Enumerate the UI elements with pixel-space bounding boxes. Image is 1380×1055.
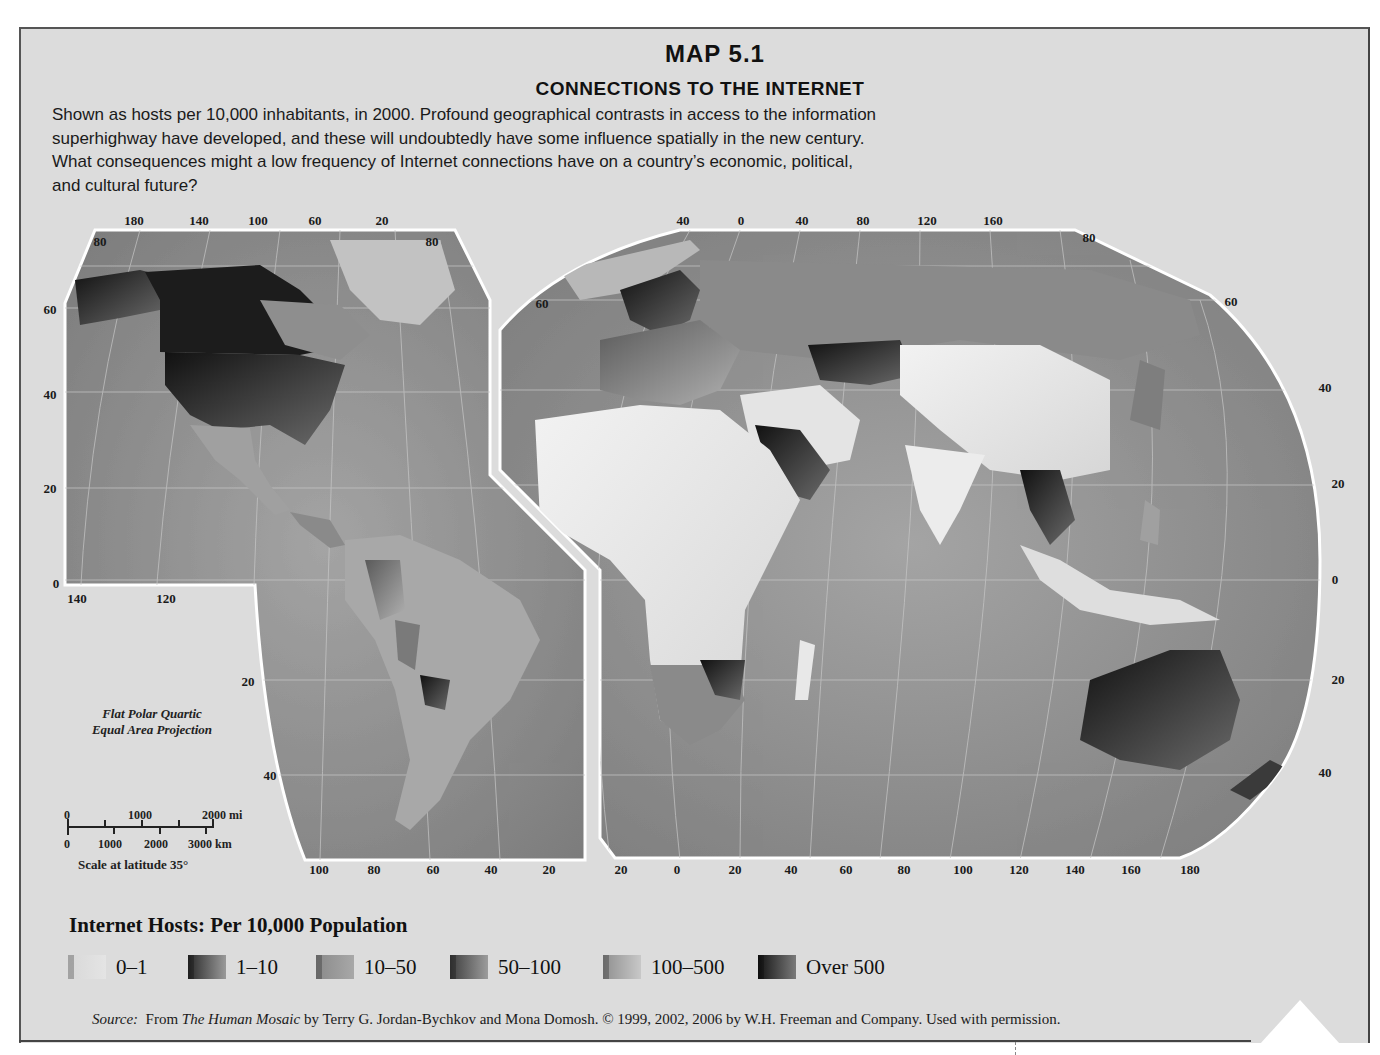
latitude-tick: 0 xyxy=(1332,572,1339,588)
longitude-tick: 140 xyxy=(189,213,209,229)
legend-label: 10–50 xyxy=(364,955,417,980)
scale-tick xyxy=(212,819,214,828)
scale-km-label: 2000 xyxy=(144,837,168,852)
longitude-tick: 40 xyxy=(677,213,690,229)
longitude-tick: 100 xyxy=(309,862,329,878)
legend-label: Over 500 xyxy=(806,955,885,980)
scale-tick xyxy=(67,819,69,835)
longitude-tick: 40 xyxy=(485,862,498,878)
longitude-tick: 120 xyxy=(917,213,937,229)
legend-swatch xyxy=(316,955,354,979)
longitude-tick: 60 xyxy=(309,213,322,229)
projection-line: Equal Area Projection xyxy=(62,722,242,738)
longitude-tick: 140 xyxy=(1065,862,1085,878)
latitude-tick: 0 xyxy=(53,576,60,592)
scale-tick xyxy=(141,820,143,827)
legend-item: 1–10 xyxy=(188,953,278,981)
source-label: Source: xyxy=(92,1011,138,1027)
source-book-title: The Human Mosaic xyxy=(182,1011,300,1027)
longitude-tick: 100 xyxy=(248,213,268,229)
longitude-tick: 60 xyxy=(840,862,853,878)
longitude-tick: 20 xyxy=(376,213,389,229)
legend-item: 100–500 xyxy=(603,953,725,981)
source-prefix: From xyxy=(146,1011,182,1027)
legend-item: 50–100 xyxy=(450,953,561,981)
legend-swatch xyxy=(450,955,488,979)
legend-label: 50–100 xyxy=(498,955,561,980)
latitude-tick: 20 xyxy=(1332,476,1345,492)
latitude-tick: 40 xyxy=(1319,765,1332,781)
legend-item: 10–50 xyxy=(316,953,417,981)
scale-tick xyxy=(159,827,161,834)
scale-tick xyxy=(205,827,207,834)
latitude-tick: 40 xyxy=(1319,380,1332,396)
scale-km-label: 0 xyxy=(64,837,70,852)
source-text: by Terry G. Jordan-Bychkov and Mona Domo… xyxy=(300,1011,1060,1027)
scale-tick xyxy=(104,820,106,827)
longitude-tick: 180 xyxy=(1180,862,1200,878)
longitude-tick: 0 xyxy=(674,862,681,878)
longitude-tick: 100 xyxy=(953,862,973,878)
legend-item: Over 500 xyxy=(758,953,885,981)
latitude-tick: 60 xyxy=(1225,294,1238,310)
longitude-tick: 60 xyxy=(427,862,440,878)
scale-line xyxy=(67,826,212,828)
latitude-tick: 20 xyxy=(44,481,57,497)
latitude-tick: 80 xyxy=(426,234,439,250)
longitude-tick: 40 xyxy=(785,862,798,878)
legend-item: 0–1 xyxy=(68,953,148,981)
scale-mi-label: 1000 xyxy=(128,808,152,823)
legend-swatch xyxy=(188,955,226,979)
latitude-tick: 80 xyxy=(1083,230,1096,246)
scale-caption: Scale at latitude 35° xyxy=(78,857,188,873)
latitude-tick: 80 xyxy=(94,234,107,250)
scale-km-label: 3000 km xyxy=(188,837,232,852)
longitude-tick: 0 xyxy=(738,213,745,229)
legend-title: Internet Hosts: Per 10,000 Population xyxy=(69,913,408,938)
scale-tick xyxy=(178,820,180,827)
source-citation: Source: From The Human Mosaic by Terry G… xyxy=(92,1011,1060,1028)
projection-line: Flat Polar Quartic xyxy=(62,706,242,722)
latitude-tick: 60 xyxy=(44,302,57,318)
longitude-tick: 80 xyxy=(898,862,911,878)
latitude-tick: 20 xyxy=(1332,672,1345,688)
longitude-tick: 160 xyxy=(1121,862,1141,878)
world-map-graphic xyxy=(0,0,1380,1055)
projection-label: Flat Polar Quartic Equal Area Projection xyxy=(62,706,242,738)
scale-tick xyxy=(113,827,115,834)
legend-label: 0–1 xyxy=(116,955,148,980)
eastern-hemisphere-map-panel xyxy=(500,230,1330,860)
longitude-tick: 160 xyxy=(983,213,1003,229)
longitude-tick: 120 xyxy=(156,591,176,607)
longitude-tick: 20 xyxy=(543,862,556,878)
legend-label: 100–500 xyxy=(651,955,725,980)
longitude-tick: 80 xyxy=(368,862,381,878)
longitude-tick: 120 xyxy=(1009,862,1029,878)
legend-label: 1–10 xyxy=(236,955,278,980)
longitude-tick: 20 xyxy=(729,862,742,878)
longitude-tick: 20 xyxy=(615,862,628,878)
latitude-tick: 40 xyxy=(44,387,57,403)
longitude-tick: 40 xyxy=(796,213,809,229)
legend-swatch xyxy=(68,955,106,979)
scale-mi-label: 2000 mi xyxy=(202,808,242,823)
longitude-tick: 140 xyxy=(67,591,87,607)
longitude-tick: 80 xyxy=(857,213,870,229)
longitude-tick: 180 xyxy=(124,213,144,229)
legend-swatch xyxy=(603,955,641,979)
latitude-tick: 60 xyxy=(536,296,549,312)
latitude-tick: 40 xyxy=(264,768,277,784)
latitude-tick: 20 xyxy=(242,674,255,690)
scale-km-label: 1000 xyxy=(98,837,122,852)
legend-swatch xyxy=(758,955,796,979)
